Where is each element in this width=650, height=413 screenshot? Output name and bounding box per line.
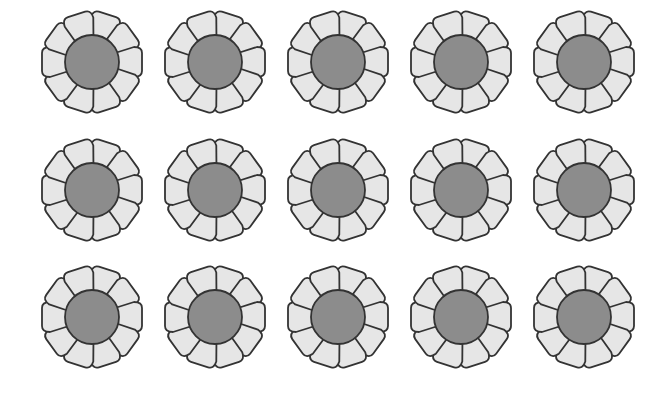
flower-center bbox=[65, 290, 119, 344]
flower bbox=[532, 10, 636, 114]
flower-center bbox=[434, 163, 488, 217]
flower bbox=[163, 138, 267, 242]
flower-center bbox=[188, 35, 242, 89]
flower bbox=[409, 265, 513, 369]
flower-center bbox=[65, 35, 119, 89]
flower-center bbox=[65, 163, 119, 217]
flower-center bbox=[434, 290, 488, 344]
flower-center bbox=[311, 163, 365, 217]
flower-center bbox=[557, 163, 611, 217]
flower-center bbox=[188, 290, 242, 344]
flower bbox=[40, 138, 144, 242]
flower bbox=[409, 10, 513, 114]
flower-center bbox=[311, 35, 365, 89]
flower bbox=[286, 265, 390, 369]
flower bbox=[163, 10, 267, 114]
flower bbox=[163, 265, 267, 369]
flower bbox=[40, 265, 144, 369]
flower-center bbox=[188, 163, 242, 217]
flower-center bbox=[557, 35, 611, 89]
flower bbox=[286, 10, 390, 114]
flower bbox=[409, 138, 513, 242]
flower bbox=[532, 265, 636, 369]
flower-center bbox=[434, 35, 488, 89]
flower bbox=[40, 10, 144, 114]
flower bbox=[532, 138, 636, 242]
flower-center bbox=[557, 290, 611, 344]
flower bbox=[286, 138, 390, 242]
flower-center bbox=[311, 290, 365, 344]
flower-grid bbox=[0, 0, 650, 413]
